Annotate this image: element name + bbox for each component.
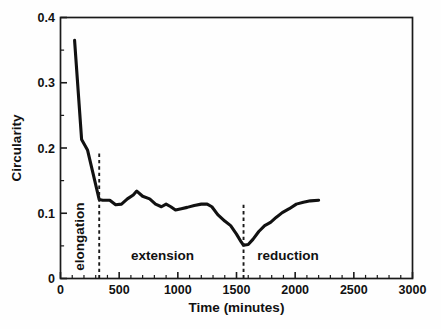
x-axis-title: Time (minutes)	[189, 300, 285, 315]
chart-figure: 05001000150020002500300000.10.20.30.4Tim…	[0, 0, 441, 329]
x-axis-tick-label: 1500	[223, 283, 251, 297]
y-axis-tick-label: 0.1	[38, 207, 55, 221]
y-axis-tick-label: 0	[48, 272, 55, 286]
region-label-extension: extension	[131, 248, 194, 263]
x-axis-tick-label: 2000	[281, 283, 309, 297]
circularity-vs-time-chart: 05001000150020002500300000.10.20.30.4Tim…	[0, 0, 441, 329]
x-axis-tick-label: 3000	[399, 283, 427, 297]
x-axis-tick-label: 2500	[340, 283, 368, 297]
y-axis-tick-label: 0.2	[38, 142, 55, 156]
y-axis-tick-label: 0.4	[38, 11, 55, 25]
x-axis-tick-label: 1000	[164, 283, 192, 297]
region-label-reduction: reduction	[257, 248, 319, 263]
region-label-elongation: elongation	[72, 202, 87, 270]
y-axis-tick-label: 0.3	[38, 76, 55, 90]
y-axis-title: Circularity	[9, 114, 24, 181]
plot-frame	[61, 18, 413, 279]
x-axis-tick-label: 0	[57, 283, 64, 297]
x-axis-tick-label: 500	[109, 283, 130, 297]
data-series-line	[75, 40, 319, 245]
